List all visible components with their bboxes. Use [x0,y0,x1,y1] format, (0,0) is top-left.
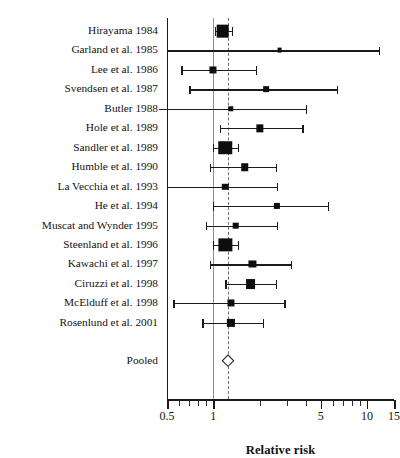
confidence-interval-cap-lower [213,144,214,152]
confidence-interval-cap-upper [263,319,264,327]
study-label: Svendsen et al. 1987 [65,83,159,94]
study-row [167,148,394,149]
x-axis-tick-major [321,400,323,409]
confidence-interval-cap-upper [277,222,278,230]
confidence-interval-cap-upper [306,105,307,113]
point-estimate-marker [219,141,233,155]
confidence-interval-cap-lower [181,66,182,74]
confidence-interval-cap-upper [276,164,277,172]
confidence-interval-cap-lower [202,319,203,327]
confidence-interval-cap-upper [238,241,239,249]
study-label: Rosenlund et al. 2001 [59,317,158,328]
confidence-interval-cap-lower [206,222,207,230]
point-estimate-marker [219,238,232,251]
confidence-interval-cap-upper [238,144,239,152]
study-label: La Vecchia et al. 1993 [58,181,158,192]
confidence-interval-cap-lower [167,183,168,191]
pooled-reference-line [228,18,229,399]
point-estimate-marker [256,125,263,132]
plot-area: Relative risk 0.5151015 [167,18,394,400]
study-label: Sandler et al. 1989 [73,142,158,153]
study-label: Humble et al. 1990 [71,161,158,172]
study-label: Kawachi et al. 1997 [68,258,158,269]
study-label-column: Hirayama 1984Garland et al. 1985Lee et a… [0,0,163,452]
point-estimate-marker [263,86,269,92]
confidence-interval-cap-lower [213,202,214,210]
confidence-interval-cap-lower [173,300,174,308]
confidence-interval-cap-upper [379,47,380,55]
x-axis-tick-minor [206,400,207,406]
x-axis-tick-label: 5 [318,410,324,423]
study-label: Hole et al. 1989 [86,122,158,133]
x-axis-tick-label: 15 [388,410,400,423]
study-label: McElduff et al. 1998 [64,297,158,308]
point-estimate-marker [274,203,280,209]
study-row [167,31,394,32]
confidence-interval-cap-upper [337,86,338,94]
study-label: Butler 1988 [104,103,158,114]
point-estimate-marker [232,222,239,229]
study-row [167,303,394,304]
confidence-interval-cap-upper [302,125,303,133]
study-label: Ciruzzi et al. 1998 [75,278,158,289]
confidence-interval-line [206,226,277,227]
x-axis-tick-major [213,400,215,409]
study-row [167,206,394,207]
study-label: He et al. 1994 [95,200,158,211]
x-axis-tick-minor [360,400,361,406]
confidence-interval-cap-upper [276,280,277,288]
x-axis-tick-major [167,400,169,409]
point-estimate-marker [249,261,256,268]
point-estimate-marker [227,300,234,307]
confidence-interval-cap-lower [225,280,226,288]
confidence-interval-cap-lower [167,47,168,55]
x-axis-tick-minor [189,400,190,406]
study-row [167,264,394,265]
x-axis-tick-major [367,400,369,409]
x-axis-tick-minor [352,400,353,406]
study-row [167,128,394,129]
x-axis-tick-minor [198,400,199,406]
study-row [167,167,394,168]
confidence-interval-cap-lower [210,164,211,172]
confidence-interval-cap-upper [328,202,329,210]
study-row [167,89,394,90]
x-axis-tick-minor [260,400,261,406]
x-axis-tick-minor [306,400,307,406]
study-row [167,109,394,110]
confidence-interval-cap-upper [291,261,292,269]
confidence-interval-cap-upper [232,27,233,35]
pooled-row [167,361,394,362]
confidence-interval-cap-lower [210,261,211,269]
pooled-estimate-diamond [222,355,235,368]
confidence-interval-cap-lower [189,86,190,94]
confidence-interval-line [213,206,328,207]
x-axis-tick-label: 10 [361,410,373,423]
point-estimate-marker [222,183,228,189]
confidence-interval-cap-lower [213,241,214,249]
plot-left-border [167,18,168,399]
study-row [167,245,394,246]
x-axis-tick-label: 1 [210,410,216,423]
x-axis-tick-minor [343,400,344,406]
study-row [167,323,394,324]
study-row [167,187,394,188]
study-label: Steenland et al. 1996 [63,239,158,250]
confidence-interval-cap-upper [256,66,257,74]
x-axis-tick-label: 0.5 [160,410,175,423]
point-estimate-marker [227,319,235,327]
point-estimate-marker [241,163,249,171]
confidence-interval-line [167,50,379,51]
point-estimate-marker [228,106,234,112]
study-row [167,50,394,51]
study-label: Hirayama 1984 [88,25,158,36]
point-estimate-marker [216,25,229,38]
confidence-interval-cap-lower [220,125,221,133]
x-axis-tick-major [394,400,396,409]
study-label: Garland et al. 1985 [71,44,158,55]
study-row [167,226,394,227]
point-estimate-marker [246,279,256,289]
study-label: Lee et al. 1986 [91,64,158,75]
point-estimate-marker [210,66,217,73]
